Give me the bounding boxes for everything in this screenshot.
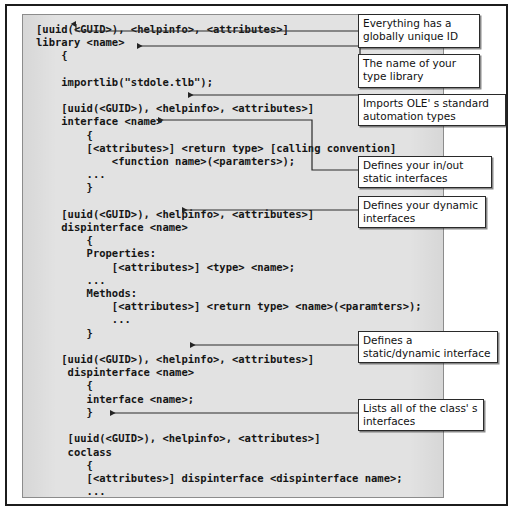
callout-importlib-ole-types: Imports OLE' s standard automation types: [358, 94, 506, 126]
callout-class-interfaces: Lists all of the class' s interfaces: [358, 399, 484, 431]
callout-static-interfaces: Defines your in/out static interfaces: [358, 156, 492, 188]
callout-globally-unique-id: Everything has a globally unique ID: [358, 14, 480, 48]
callout-dynamic-interfaces: Defines your dynamic interfaces: [358, 196, 486, 228]
callout-type-library-name: The name of your type library: [358, 54, 480, 88]
annotated-idl-figure: [uuid(<GUID>), <helpinfo>, <attributes>]…: [0, 0, 516, 514]
callout-static-dynamic-interface: Defines a static/dynamic interface: [358, 331, 498, 363]
